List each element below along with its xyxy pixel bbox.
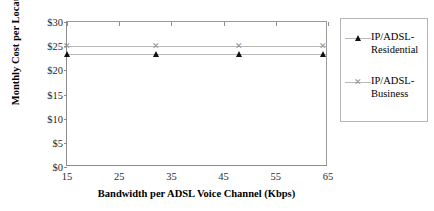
- legend-key: ✕: [345, 76, 371, 88]
- x-tick-mark: [276, 22, 277, 26]
- data-point-marker: ✕: [319, 42, 327, 51]
- chart-container: Monthly Cost per Location $0$5$10$15$20$…: [0, 0, 434, 211]
- legend-label: IP/ADSL-Residential: [371, 31, 427, 56]
- plot-area: $0$5$10$15$20$25$30 152535455565 ✕✕✕✕: [66, 21, 327, 166]
- x-tick-label: 25: [114, 165, 125, 182]
- chart-legend: IP/ADSL-Residential✕IP/ADSL-Business: [340, 18, 428, 122]
- y-tick-mark: [64, 95, 67, 96]
- data-point-marker: ✕: [235, 42, 243, 51]
- y-axis-title: Monthly Cost per Location: [10, 0, 21, 117]
- x-tick-label: 65: [323, 165, 334, 182]
- legend-entry: ✕IP/ADSL-Business: [345, 75, 427, 100]
- series-line: [67, 54, 326, 55]
- x-axis-title: Bandwidth per ADSL Voice Channel (Kbps): [66, 188, 327, 199]
- data-point-marker: [64, 51, 70, 57]
- cross-marker-icon: ✕: [354, 77, 362, 87]
- x-tick-label: 15: [62, 165, 73, 182]
- x-tick-label: 45: [218, 165, 229, 182]
- x-tick-mark: [171, 22, 172, 26]
- x-tick-mark: [224, 22, 225, 26]
- x-tick-label: 35: [166, 165, 177, 182]
- series-line: [67, 46, 326, 47]
- legend-entry: IP/ADSL-Residential: [345, 31, 427, 56]
- data-point-marker: ✕: [152, 42, 160, 51]
- data-point-marker: [320, 51, 326, 57]
- data-point-marker: [153, 51, 159, 57]
- triangle-marker-icon: [355, 35, 361, 41]
- x-tick-mark: [328, 22, 329, 26]
- y-tick-mark: [64, 70, 67, 71]
- data-point-marker: ✕: [63, 42, 71, 51]
- data-point-marker: [236, 51, 242, 57]
- x-tick-mark: [67, 22, 68, 26]
- x-tick-label: 55: [271, 165, 282, 182]
- legend-key: [345, 32, 371, 44]
- y-tick-mark: [64, 119, 67, 120]
- y-tick-mark: [64, 143, 67, 144]
- x-tick-mark: [119, 22, 120, 26]
- legend-label: IP/ADSL-Business: [371, 75, 427, 100]
